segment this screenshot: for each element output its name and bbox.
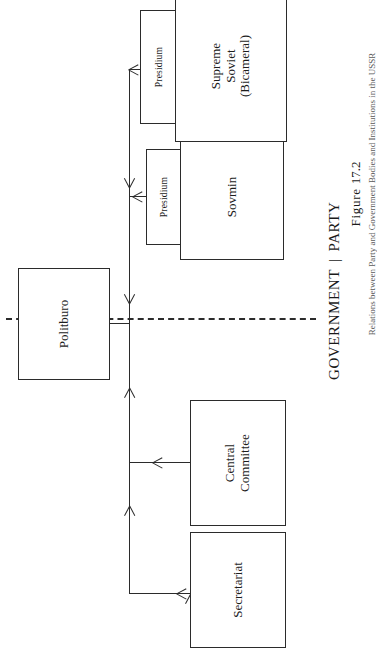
government-party-heading: GOVERNMENT|PARTY (326, 50, 343, 380)
presidium-tab-supreme-soviet: Presidium (140, 10, 177, 124)
box-sovmin-label: Sovmin (225, 175, 240, 219)
box-sovmin: Sovmin (180, 134, 284, 260)
box-central-committee: CentralCommittee (190, 400, 286, 526)
government-label: GOVERNMENT (326, 269, 343, 380)
presidium-tab-sovmin-label: Presidium (159, 177, 169, 217)
box-politburo: Politburo (18, 268, 110, 380)
connector-politburo (110, 323, 129, 324)
figure-caption-text: Relations between Party and Government B… (367, 8, 377, 380)
divider-separator: | (326, 251, 343, 269)
box-secretariat-label: Secretariat (231, 560, 246, 620)
figure-label: Figure (348, 188, 363, 226)
spine-trunk (129, 320, 130, 594)
box-secretariat: Secretariat (190, 532, 286, 648)
presidium-tab-sovmin: Presidium (146, 149, 182, 245)
presidium-tab-supreme-soviet-label: Presidium (154, 47, 164, 87)
diagram-stage: Secretariat CentralCommittee Politburo P… (0, 0, 378, 656)
figure-number-line: Figure 17.2 (348, 8, 364, 380)
figure-number: 17.2 (348, 162, 363, 185)
box-supreme-soviet-label: SupremeSoviet(Bicameral) (209, 33, 253, 99)
connector-central-committee (129, 462, 190, 463)
box-supreme-soviet: SupremeSoviet(Bicameral) (175, 0, 287, 142)
box-politburo-label: Politburo (57, 298, 72, 350)
secretariat-riser (129, 593, 190, 594)
figure-caption: Figure 17.2 Relations between Party and … (348, 8, 377, 380)
box-central-committee-label: CentralCommittee (223, 432, 252, 494)
party-label: PARTY (326, 201, 343, 251)
